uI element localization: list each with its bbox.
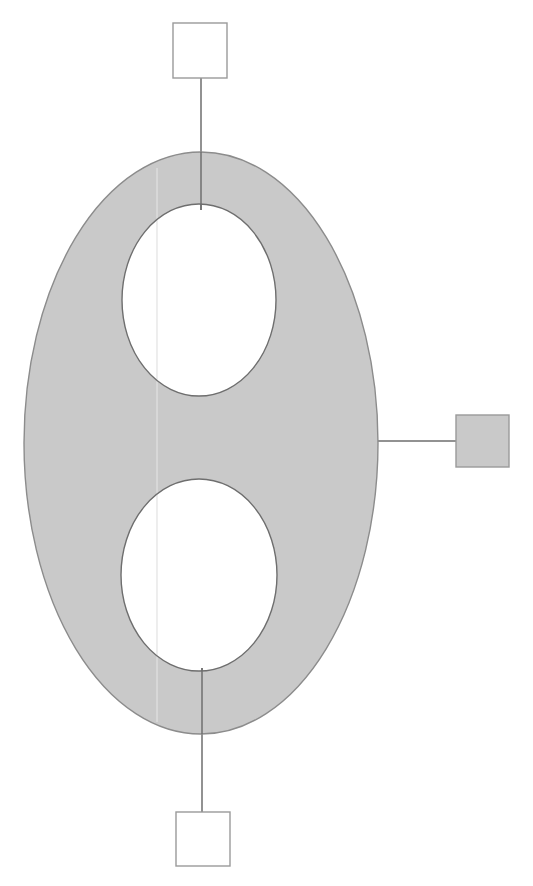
right-node-square[interactable]	[456, 415, 509, 467]
diagram-canvas	[0, 0, 533, 886]
top-node-square[interactable]	[173, 23, 227, 78]
outer-ellipse[interactable]	[24, 152, 378, 734]
genus-two-body-group[interactable]	[24, 152, 378, 734]
diagram-svg	[0, 0, 533, 886]
bottom-node-square[interactable]	[176, 812, 230, 866]
